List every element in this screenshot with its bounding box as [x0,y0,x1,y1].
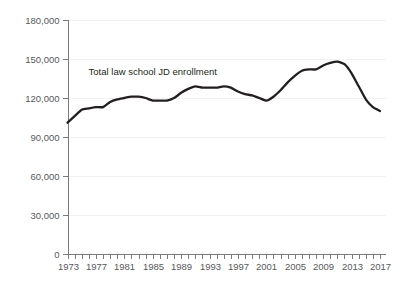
x-axis: 1973197719811985198919931997200120052009… [58,255,391,273]
y-tick-label: 60,000 [30,171,59,182]
x-tick-label: 1977 [86,261,107,272]
grid-lines [68,21,387,216]
x-tick-label: 1985 [143,261,164,272]
x-tick-label: 2017 [370,261,391,272]
x-tick-label: 1981 [114,261,135,272]
x-tick-label: 1993 [200,261,221,272]
y-tick-label: 90,000 [30,132,59,143]
x-tick-label: 1997 [228,261,249,272]
y-tick-label: 150,000 [25,54,59,65]
x-tick-label: 2001 [256,261,277,272]
y-tick-label: 120,000 [25,93,59,104]
x-tick-label: 2005 [285,261,306,272]
x-tick-label: 1989 [171,261,192,272]
series-annotation: Total law school JD enrollment [89,66,218,77]
x-tick-label: 2009 [313,261,334,272]
y-tick-label: 30,000 [30,210,59,221]
series-annotation-layer: Total law school JD enrollment [89,66,218,77]
y-axis: 180,000150,000120,00090,00060,00030,0000 [25,15,68,260]
x-tick-label: 1973 [58,261,79,272]
y-tick-label: 180,000 [25,15,59,26]
x-tick-label: 2013 [342,261,363,272]
line-chart: 180,000150,000120,00090,00060,00030,0000… [0,0,402,294]
chart-container: 180,000150,000120,00090,00060,00030,0000… [0,0,402,294]
y-tick-label: 0 [54,249,59,260]
